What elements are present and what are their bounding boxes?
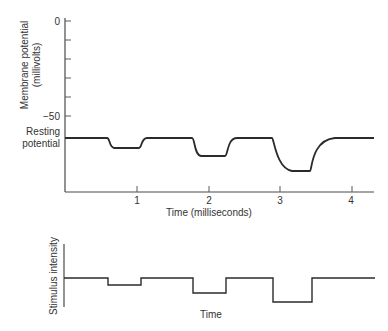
- stimulus-trace: [64, 278, 375, 302]
- resting-potential-label: Resting: [26, 126, 60, 137]
- membrane-potential-trace: [65, 138, 374, 171]
- y-tick-label-0: 0: [54, 16, 60, 27]
- resting-potential-label-2: potential: [22, 138, 60, 149]
- x-tick-label-4: 4: [348, 195, 354, 206]
- x-tick-label-3: 3: [277, 195, 283, 206]
- x-tick-label-2: 2: [206, 195, 212, 206]
- x-tick-label-1: 1: [134, 195, 140, 206]
- stimulus-intensity-chart: Stimulus intensity Time: [48, 237, 375, 320]
- figure: Membrane potential (millivolts) 0 −50 Re…: [0, 0, 388, 331]
- y-axis-unit: (millivolts): [31, 43, 42, 87]
- stimulus-x-axis-label: Time: [200, 309, 222, 320]
- x-ticks: [137, 186, 352, 192]
- stimulus-y-axis-label: Stimulus intensity: [48, 237, 59, 315]
- y-ticks: [65, 21, 71, 116]
- y-tick-label-minus50: −50: [43, 111, 60, 122]
- y-axis-label: Membrane potential: [19, 21, 30, 109]
- x-axis-label: Time (milliseconds): [166, 207, 252, 218]
- membrane-potential-chart: Membrane potential (millivolts) 0 −50 Re…: [19, 16, 374, 218]
